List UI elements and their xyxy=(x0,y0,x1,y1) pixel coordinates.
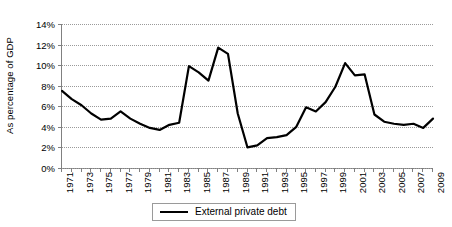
chart-container: As percentage of GDP 0%2%4%6%8%10%12%14%… xyxy=(0,0,452,227)
y-axis-tick-label: 6% xyxy=(41,101,55,112)
x-axis-tick-label: 1971 xyxy=(65,172,75,193)
y-axis-tick-labels: 0%2%4%6%8%10%12%14% xyxy=(20,18,58,170)
y-axis-title: As percentage of GDP xyxy=(0,0,20,170)
x-axis-tick-label: 2005 xyxy=(397,172,407,193)
legend-line-swatch xyxy=(160,211,188,213)
series-line-chart xyxy=(62,24,433,168)
x-axis-tick-label: 1983 xyxy=(182,172,192,193)
y-axis-tick-label: 10% xyxy=(36,60,55,71)
y-axis-tick-label: 4% xyxy=(41,121,55,132)
chart-legend: External private debt xyxy=(152,203,296,221)
x-axis-tick-labels: 1971197319751977197919811983198519871989… xyxy=(61,172,433,204)
x-axis-tick-label: 1999 xyxy=(338,172,348,193)
x-axis-tick-label: 1981 xyxy=(163,172,173,193)
plot-area xyxy=(61,24,433,169)
x-axis-tick-label: 1993 xyxy=(280,172,290,193)
y-axis-tick-label: 12% xyxy=(36,39,55,50)
x-axis-tick-label: 1995 xyxy=(299,172,309,193)
series-line-external-private-debt xyxy=(62,48,433,148)
x-axis-tick-label: 2001 xyxy=(358,172,368,193)
x-axis-tick-label: 2003 xyxy=(377,172,387,193)
y-axis-tick-label: 14% xyxy=(36,19,55,30)
x-axis-tick-label: 1991 xyxy=(260,172,270,193)
x-axis-tick-label: 2009 xyxy=(436,172,446,193)
y-axis-tick-label: 8% xyxy=(41,80,55,91)
y-axis-title-label: As percentage of GDP xyxy=(5,36,16,133)
x-axis-tick-label: 1997 xyxy=(319,172,329,193)
x-axis-tick-label: 2007 xyxy=(416,172,426,193)
y-axis-tick-label: 0% xyxy=(41,163,55,174)
x-axis-tick-label: 1977 xyxy=(124,172,134,193)
x-axis-tick-label: 1987 xyxy=(221,172,231,193)
x-axis-tick-label: 1989 xyxy=(241,172,251,193)
x-axis-tick-label: 1979 xyxy=(143,172,153,193)
x-axis-tick-label: 1985 xyxy=(202,172,212,193)
x-axis-tick-label: 1975 xyxy=(104,172,114,193)
y-axis-tick-label: 2% xyxy=(41,142,55,153)
x-axis-tick-label: 1973 xyxy=(85,172,95,193)
legend-item-label: External private debt xyxy=(195,206,287,217)
